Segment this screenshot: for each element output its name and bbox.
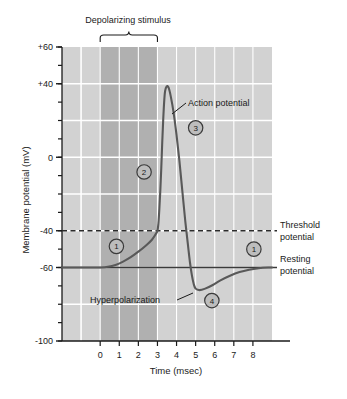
x-tick-label: 1 — [117, 350, 122, 360]
phase-marker-number: 1 — [114, 242, 119, 251]
x-tick-label: 5 — [193, 350, 198, 360]
phase-marker-2: 2 — [137, 165, 151, 179]
phase-marker-number: 2 — [142, 168, 147, 177]
resting-potential-label-line2: potential — [280, 266, 314, 276]
x-tick-label: 0 — [98, 350, 103, 360]
y-tick-label: 0 — [48, 153, 53, 163]
y-axis-ticks: +60+400-40-60-100 — [35, 42, 62, 346]
phase-marker-number: 4 — [210, 297, 215, 306]
y-tick-label: -100 — [35, 336, 53, 346]
y-tick-label: +60 — [38, 42, 53, 52]
action-potential-label: Action potential — [188, 98, 250, 108]
y-tick-label: -40 — [40, 226, 53, 236]
y-axis-title: Membrane potential (mV) — [20, 146, 31, 253]
hyperpolarization-label: Hyperpolarization — [90, 295, 160, 305]
phase-marker-1b: 1 — [247, 242, 261, 256]
x-tick-label: 3 — [155, 350, 160, 360]
phase-marker-number: 3 — [193, 124, 198, 133]
stimulus-label: Depolarizing stimulus — [85, 15, 171, 25]
y-tick-label: -60 — [40, 263, 53, 273]
x-tick-label: 7 — [231, 350, 236, 360]
x-tick-label: 4 — [174, 350, 179, 360]
x-tick-label: 6 — [212, 350, 217, 360]
phase-marker-3: 3 — [188, 121, 202, 135]
x-tick-label: 2 — [136, 350, 141, 360]
y-tick-label: +40 — [38, 79, 53, 89]
membrane-potential-chart: +60+400-40-60-100 012345678 12341 Depola… — [0, 0, 347, 399]
stimulus-bracket — [100, 32, 157, 43]
resting-potential-label-line1: Resting — [280, 254, 311, 264]
phase-marker-number: 1 — [252, 245, 257, 254]
threshold-potential-label-line2: potential — [280, 232, 314, 242]
phase-marker-4: 4 — [205, 293, 219, 307]
x-tick-label: 8 — [250, 350, 255, 360]
phase-marker-1: 1 — [109, 239, 123, 253]
x-axis-title: Time (msec) — [150, 365, 202, 376]
threshold-potential-label-line1: Threshold — [280, 220, 320, 230]
x-axis-ticks: 012345678 — [98, 341, 256, 360]
action-potential-figure: +60+400-40-60-100 012345678 12341 Depola… — [0, 0, 347, 399]
